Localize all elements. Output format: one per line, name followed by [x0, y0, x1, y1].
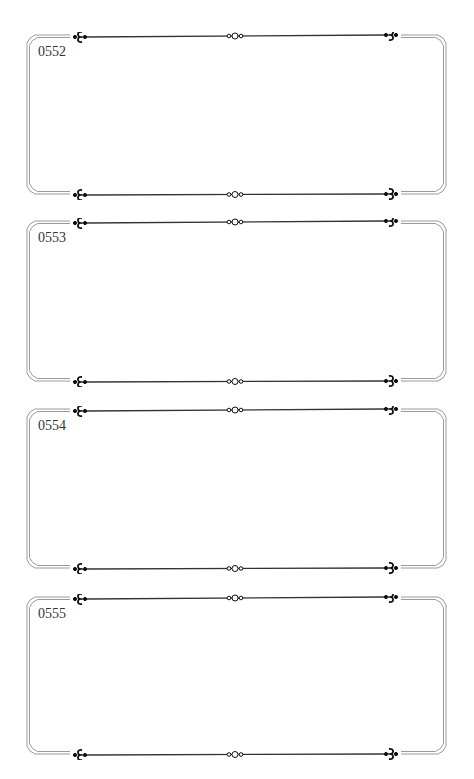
triple-ring-icon — [227, 379, 243, 385]
frame-number: 0554 — [38, 418, 66, 434]
fleur-left-icon — [73, 218, 86, 228]
fleur-right-icon — [384, 406, 397, 414]
triple-ring-icon — [227, 752, 243, 758]
frame-number: 0555 — [38, 606, 66, 622]
triple-ring-icon — [227, 407, 243, 413]
fleur-left-icon — [73, 750, 86, 760]
triple-ring-icon — [227, 33, 243, 39]
fleur-right-icon — [384, 218, 397, 226]
triple-ring-icon — [227, 192, 243, 198]
fleur-left-icon — [73, 594, 86, 604]
fleur-right-icon — [384, 749, 397, 759]
ornamental-border — [0, 594, 474, 760]
fleur-left-icon — [73, 406, 86, 416]
frame-number: 0553 — [38, 230, 66, 246]
ornamental-border — [0, 218, 474, 387]
ornamental-border — [0, 406, 474, 574]
fleur-right-icon — [384, 594, 397, 602]
fleur-left-icon — [73, 377, 86, 387]
fleur-right-icon — [384, 563, 397, 573]
fleur-right-icon — [384, 376, 397, 386]
triple-ring-icon — [227, 595, 243, 601]
triple-ring-icon — [227, 219, 243, 225]
fleur-left-icon — [73, 190, 86, 200]
fleur-left-icon — [73, 32, 86, 42]
triple-ring-icon — [227, 566, 243, 572]
frame-number: 0552 — [38, 44, 66, 60]
ornamental-border — [0, 32, 474, 200]
fleur-left-icon — [73, 564, 86, 574]
fleur-right-icon — [384, 189, 397, 199]
fleur-right-icon — [384, 32, 397, 40]
